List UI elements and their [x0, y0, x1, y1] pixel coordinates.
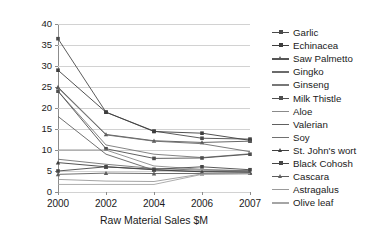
chart-legend: GarlicEchinaceaSaw PalmettoGingkoGinseng…: [272, 26, 380, 209]
data-point-marker: [104, 110, 108, 114]
gridline: [58, 24, 250, 25]
data-point-marker: [104, 165, 108, 169]
legend-item-garlic[interactable]: Garlic: [272, 26, 380, 39]
legend-item-olive-leaf[interactable]: Olive leaf: [272, 196, 380, 209]
legend-marker-icon: [272, 171, 289, 182]
legend-item-valerian[interactable]: Valerian: [272, 118, 380, 131]
legend-item-cascara[interactable]: Cascara: [272, 170, 380, 183]
legend-item-label: Garlic: [293, 27, 318, 38]
data-point-marker: [200, 136, 204, 140]
legend-item-label: Olive leaf: [293, 197, 333, 208]
gridline: [58, 66, 250, 67]
series-line: [58, 116, 250, 171]
y-tick-mark: [55, 45, 58, 46]
series-line: [58, 150, 250, 171]
legend-item-astragalus[interactable]: Astragalus: [272, 183, 380, 196]
legend-marker-icon: [272, 79, 289, 90]
data-point-marker: [104, 132, 108, 136]
x-tick-mark: [154, 192, 155, 195]
y-tick-label: 10: [24, 145, 52, 155]
data-point-marker: [152, 139, 156, 143]
legend-item-label: Aloe: [293, 106, 312, 117]
legend-item-label: Ginseng: [293, 79, 329, 90]
legend-marker-icon: [272, 119, 289, 130]
y-tick-mark: [55, 87, 58, 88]
series-line: [58, 174, 250, 185]
gridline: [58, 108, 250, 109]
gridline: [58, 45, 250, 46]
series-line: [58, 88, 250, 152]
y-tick-mark: [55, 108, 58, 109]
x-tick-label: 2007: [228, 198, 272, 209]
legend-marker-icon: [272, 106, 289, 117]
data-point-marker: [200, 131, 204, 135]
y-tick-mark: [55, 150, 58, 151]
x-tick-label: 2006: [180, 198, 224, 209]
legend-marker-icon: [272, 66, 289, 77]
legend-item-label: Valerian: [293, 119, 328, 130]
legend-item-milk-thistle[interactable]: Milk Thistle: [272, 91, 380, 104]
legend-item-label: Cascara: [293, 171, 329, 182]
series-line: [58, 91, 250, 157]
data-point-marker: [104, 165, 108, 169]
legend-marker-icon: [272, 184, 289, 195]
data-point-marker: [248, 139, 252, 143]
legend-item-label: Astragalus: [293, 184, 339, 195]
y-tick-label: 15: [24, 124, 52, 134]
legend-item-label: Milk Thistle: [293, 93, 341, 104]
legend-item-echinacea[interactable]: Echinacea: [272, 39, 380, 52]
series-line: [58, 39, 250, 139]
legend-item-label: St. John's wort: [293, 145, 356, 156]
legend-item-ginseng[interactable]: Ginseng: [272, 78, 380, 91]
gridline: [58, 171, 250, 172]
data-point-marker: [248, 137, 252, 141]
legend-item-soy[interactable]: Soy: [272, 131, 380, 144]
legend-marker-icon: [272, 93, 289, 104]
y-tick-label: 25: [24, 82, 52, 92]
x-tick-mark: [58, 192, 59, 195]
y-tick-label: 20: [24, 103, 52, 113]
legend-item-label: Black Cohosh: [293, 158, 353, 169]
series-line: [58, 173, 250, 174]
chart-container: 0510152025303540 20002002200420062007 Ra…: [0, 0, 382, 242]
x-tick-label: 2004: [132, 198, 176, 209]
x-tick-mark: [250, 192, 251, 195]
legend-marker-icon: [272, 132, 289, 143]
y-tick-mark: [55, 24, 58, 25]
legend-item-gingko[interactable]: Gingko: [272, 65, 380, 78]
data-point-marker: [152, 130, 156, 134]
legend-item-black-cohosh[interactable]: Black Cohosh: [272, 157, 380, 170]
legend-item-label: Saw Palmetto: [293, 53, 353, 64]
y-tick-label: 5: [24, 166, 52, 176]
gridline: [58, 150, 250, 151]
legend-item-label: Soy: [293, 132, 310, 143]
x-axis-title: Raw Material Sales $M: [34, 214, 274, 226]
y-tick-label: 0: [24, 187, 52, 197]
series-line: [58, 87, 250, 142]
legend-marker-icon: [272, 145, 289, 156]
legend-item-label: Echinacea: [293, 40, 338, 51]
legend-marker-icon: [272, 27, 289, 38]
x-tick-label: 2000: [36, 198, 80, 209]
series-line: [58, 91, 250, 158]
legend-item-st-john-s-wort[interactable]: St. John's wort: [272, 144, 380, 157]
data-point-marker: [152, 157, 156, 161]
legend-item-aloe[interactable]: Aloe: [272, 105, 380, 118]
y-tick-label: 35: [24, 40, 52, 50]
data-point-marker: [104, 110, 108, 114]
legend-marker-icon: [272, 197, 289, 208]
legend-marker-icon: [272, 40, 289, 51]
series-line: [58, 174, 250, 182]
data-point-marker: [200, 140, 204, 144]
y-tick-mark: [55, 171, 58, 172]
data-point-marker: [200, 156, 204, 160]
legend-item-saw-palmetto[interactable]: Saw Palmetto: [272, 52, 380, 65]
gridline: [58, 87, 250, 88]
legend-marker-icon: [272, 53, 289, 64]
series-line: [58, 159, 250, 170]
y-tick-label: 40: [24, 19, 52, 29]
gridline: [58, 129, 250, 130]
legend-item-label: Gingko: [293, 66, 324, 77]
y-tick-mark: [55, 129, 58, 130]
x-tick-label: 2002: [84, 198, 128, 209]
